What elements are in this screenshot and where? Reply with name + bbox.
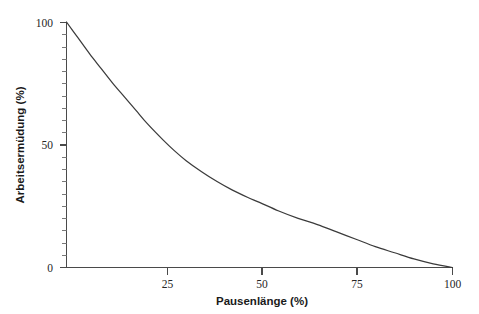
y-tick-label-100: 100 <box>36 17 54 29</box>
y-tick-label-50: 50 <box>42 139 54 151</box>
y-axis-title: Arbeitsermüdung (%) <box>14 86 26 203</box>
x-tick-label-25: 25 <box>162 278 174 290</box>
chart-figure: 100 50 0 25 50 75 100 Pausenlänge (%) Ar… <box>0 0 479 314</box>
x-tick-label-75: 75 <box>351 278 363 290</box>
line-chart-plot: 100 50 0 25 50 75 100 Pausenlänge (%) Ar… <box>0 0 479 314</box>
x-tick-label-100: 100 <box>444 278 462 290</box>
chart-background <box>0 0 479 314</box>
x-tick-label-50: 50 <box>256 278 268 290</box>
y-tick-label-0: 0 <box>47 262 53 274</box>
x-axis-title: Pausenlänge (%) <box>216 295 308 307</box>
